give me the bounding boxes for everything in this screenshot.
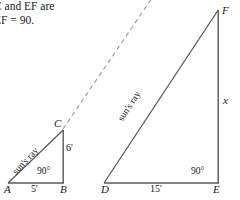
measure-ef-x: x: [223, 94, 228, 106]
measure-de-15ft: 15': [150, 183, 162, 194]
problem-statement: C and EF are EF = 90.: [0, 0, 54, 27]
vertex-label-d: D: [101, 183, 109, 195]
vertex-label-b: B: [60, 183, 67, 195]
right-angle-b: 90°: [37, 166, 50, 176]
vertex-label-f: F: [222, 4, 229, 16]
vertex-label-a: A: [4, 183, 11, 195]
problem-line-2: EF = 90.: [0, 14, 54, 28]
right-angle-e: 90°: [191, 166, 204, 176]
segment-df-hypotenuse: [104, 10, 218, 183]
problem-line-1: C and EF are: [0, 0, 54, 14]
measure-ab-5ft: 5': [31, 183, 38, 194]
vertex-label-e: E: [213, 183, 220, 195]
vertex-label-c: C: [54, 117, 61, 129]
measure-bc-6ft: 6': [66, 142, 73, 153]
dashed-sun-ray-line: [63, 0, 152, 129]
